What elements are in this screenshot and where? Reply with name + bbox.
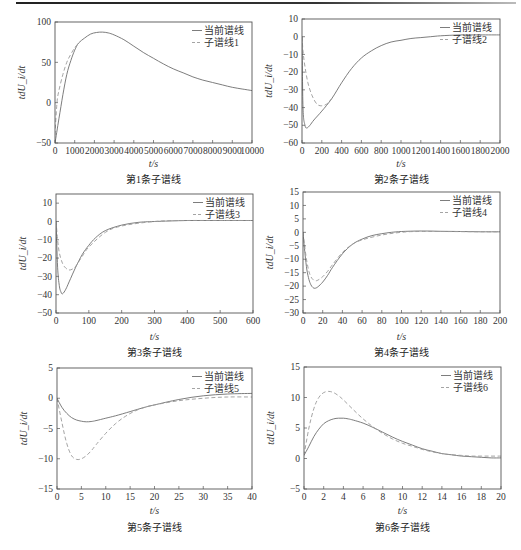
x-tick-label: 100: [394, 316, 409, 326]
x-axis-label: t/s: [396, 158, 406, 169]
x-tick-label: 2000: [85, 146, 104, 156]
x-tick-label: 200: [493, 316, 508, 326]
legend-label: 子谱线6: [453, 381, 488, 393]
y-tick-label: 15: [290, 187, 300, 197]
legend-label: 当前谱线: [204, 24, 244, 36]
y-tick-label: −60: [283, 138, 298, 148]
y-axis-label: tdU_i/dt: [263, 64, 274, 98]
subplot-caption: 第6条子谱线: [375, 521, 430, 533]
x-tick-label: 0: [300, 146, 305, 156]
subplot-caption: 第2条子谱线: [374, 173, 429, 185]
y-tick-label: 0: [48, 393, 53, 403]
current-spectrum-line-3: [56, 220, 253, 293]
y-tick-label: −20: [283, 67, 298, 77]
x-tick-label: 35: [223, 492, 233, 502]
x-tick-label: 2000: [491, 146, 510, 156]
y-tick-label: 15: [291, 362, 301, 372]
subplot-3: 0100200300400500600−50−40−30−20−10010t/s…: [17, 194, 260, 358]
x-tick-label: 1200: [411, 146, 430, 156]
y-tick-label: 5: [48, 363, 53, 373]
current-spectrum-line-6: [304, 418, 501, 458]
x-tick-label: 25: [174, 492, 184, 502]
legend-label: 当前谱线: [204, 370, 244, 382]
x-tick-label: 400: [334, 146, 349, 156]
x-tick-label: 0: [55, 492, 60, 502]
x-tick-label: 10: [101, 492, 111, 502]
x-tick-label: 60: [357, 316, 367, 326]
y-tick-label: 10: [290, 201, 300, 211]
x-tick-label: 40: [338, 316, 348, 326]
current-spectrum-line-5: [57, 393, 252, 421]
x-tick-label: 4: [341, 492, 346, 502]
y-tick-label: 100: [37, 17, 52, 27]
subplot-2: 0200400600800100012001400160018002000−60…: [263, 14, 510, 185]
legend-label: 子谱线2: [452, 33, 487, 45]
y-tick-label: −50: [283, 120, 298, 130]
x-axis-label: t/s: [150, 505, 160, 516]
x-axis-label: t/s: [398, 505, 408, 516]
y-tick-label: 5: [295, 423, 300, 433]
y-tick-label: −15: [38, 484, 53, 494]
y-tick-label: 0: [294, 228, 299, 238]
current-spectrum-line-1: [55, 32, 252, 143]
y-tick-label: −40: [37, 290, 52, 300]
legend-label: 当前谱线: [453, 369, 493, 381]
x-tick-label: 6: [361, 492, 366, 502]
y-tick-label: 10: [289, 14, 299, 24]
y-tick-label: −25: [284, 295, 299, 305]
y-tick-label: −15: [284, 268, 299, 278]
x-tick-label: 20: [496, 492, 506, 502]
x-tick-label: 180: [473, 316, 488, 326]
y-tick-label: −10: [38, 454, 53, 464]
x-tick-label: 2: [321, 492, 326, 502]
x-tick-label: 10: [398, 492, 408, 502]
legend-label: 子谱线1: [204, 36, 239, 48]
x-tick-label: 120: [414, 316, 429, 326]
current-spectrum-line-2: [302, 35, 500, 128]
x-tick-label: 140: [434, 316, 449, 326]
sub-spectrum-line-6: [304, 391, 501, 456]
y-tick-label: −10: [284, 254, 299, 264]
y-axis-label: tdU_i/dt: [264, 236, 275, 270]
y-tick-label: 0: [293, 32, 298, 42]
x-tick-label: 7000: [183, 146, 202, 156]
subplot-1: 0100020003000400050006000700080009000100…: [16, 17, 264, 185]
x-tick-label: 600: [246, 316, 261, 326]
y-tick-label: 0: [46, 98, 51, 108]
x-tick-label: 1400: [431, 146, 450, 156]
x-tick-label: 0: [301, 316, 306, 326]
x-tick-label: 200: [315, 146, 330, 156]
legend: 当前谱线子谱线4: [440, 194, 492, 218]
y-axis-label: tdU_i/dt: [265, 411, 276, 445]
x-tick-label: 1000: [392, 146, 411, 156]
x-tick-label: 80: [377, 316, 387, 326]
legend: 当前谱线子谱线1: [192, 24, 244, 48]
x-tick-label: 160: [453, 316, 468, 326]
y-tick-label: −20: [284, 281, 299, 291]
x-tick-label: 1600: [451, 146, 470, 156]
y-tick-label: −50: [36, 138, 51, 148]
x-tick-label: 6000: [164, 146, 183, 156]
x-tick-label: 16: [457, 492, 467, 502]
y-tick-label: −30: [284, 308, 299, 318]
x-tick-label: 3000: [105, 146, 124, 156]
x-axis-label: t/s: [150, 331, 160, 342]
y-tick-label: −5: [290, 484, 300, 494]
subplot-caption: 第4条子谱线: [374, 346, 429, 358]
sub-spectrum-line-4: [303, 231, 500, 280]
y-tick-label: −10: [37, 235, 52, 245]
y-axis-label: tdU_i/dt: [16, 66, 27, 100]
subplot-caption: 第3条子谱线: [127, 346, 182, 358]
legend-label: 子谱线4: [452, 206, 487, 218]
x-tick-label: 800: [374, 146, 389, 156]
legend: 当前谱线子谱线2: [440, 21, 492, 45]
x-tick-label: 500: [213, 316, 228, 326]
x-tick-label: 40: [247, 492, 257, 502]
y-tick-label: 5: [294, 214, 299, 224]
x-tick-label: 0: [54, 316, 59, 326]
y-tick-label: −5: [289, 241, 299, 251]
x-tick-label: 1800: [471, 146, 490, 156]
x-tick-label: 12: [417, 492, 427, 502]
x-tick-label: 1000: [65, 146, 84, 156]
y-axis-label: tdU_i/dt: [18, 412, 29, 446]
